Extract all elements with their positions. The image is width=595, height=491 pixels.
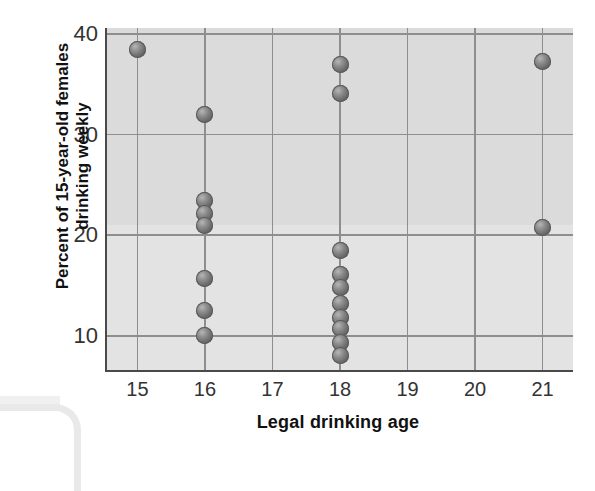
x-axis-title: Legal drinking age bbox=[105, 412, 571, 433]
y-axis-tick-labels: 10203040 bbox=[107, 28, 573, 370]
plot-area: 10203040 15161718192021 bbox=[105, 28, 573, 372]
x-tick-label: 16 bbox=[194, 378, 216, 401]
x-tick-label: 19 bbox=[396, 378, 418, 401]
page-corner-artifact bbox=[0, 404, 81, 491]
x-tick-label: 18 bbox=[329, 378, 351, 401]
y-axis-title-line2: drinking weekly bbox=[73, 1, 93, 331]
x-tick-label: 15 bbox=[126, 378, 148, 401]
x-tick-label: 21 bbox=[531, 378, 553, 401]
x-tick-label: 20 bbox=[464, 378, 486, 401]
y-axis-title: Percent of 15-year-old females drinking … bbox=[53, 1, 93, 331]
y-axis-title-line1: Percent of 15-year-old females bbox=[53, 1, 73, 331]
x-tick-label: 17 bbox=[261, 378, 283, 401]
